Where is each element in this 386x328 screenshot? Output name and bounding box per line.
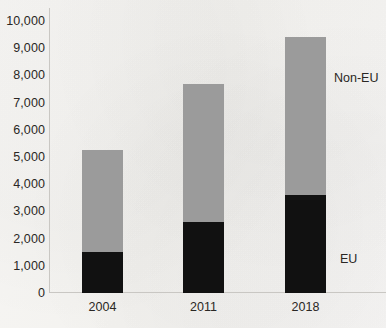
y-axis-tick-label-5000: 5,000 [13, 151, 45, 163]
bar-segment-eu-2011[interactable] [183, 222, 224, 293]
y-axis-tick-label-7000: 7,000 [13, 97, 45, 109]
y-axis-tick-label-9000: 9,000 [13, 42, 45, 54]
y-axis-tick-label-0: 0 [38, 287, 45, 299]
bar-2004[interactable] [82, 150, 123, 293]
y-axis-line [49, 8, 50, 293]
plot-area: 10,000 9,000 8,000 7,000 6,000 5,000 4,0… [0, 0, 386, 328]
bar-segment-noneu-2011[interactable] [183, 84, 224, 223]
bar-segment-noneu-2004[interactable] [82, 150, 123, 252]
series-label-non-eu: Non-EU [334, 71, 378, 85]
stacked-bar-chart: 10,000 9,000 8,000 7,000 6,000 5,000 4,0… [0, 0, 386, 328]
x-axis-tick-label-2004: 2004 [71, 300, 135, 314]
y-axis-tick-label-6000: 6,000 [13, 124, 45, 136]
y-axis-tick-label-2000: 2,000 [13, 233, 45, 245]
x-axis-tick-label-2018: 2018 [274, 300, 338, 314]
bar-2011[interactable] [183, 84, 224, 293]
y-axis-tick-label-8000: 8,000 [13, 69, 45, 81]
bar-2018[interactable] [285, 37, 326, 293]
series-label-eu: EU [340, 252, 357, 266]
y-axis-tick-label-4000: 4,000 [13, 178, 45, 190]
bar-segment-eu-2018[interactable] [285, 195, 326, 293]
x-axis-tick-label-2011: 2011 [172, 300, 236, 314]
y-axis-tick-label-10000: 10,000 [6, 15, 45, 27]
bar-segment-noneu-2018[interactable] [285, 37, 326, 195]
bar-segment-eu-2004[interactable] [82, 252, 123, 293]
y-axis-tick-label-1000: 1,000 [13, 260, 45, 272]
y-axis-tick-label-3000: 3,000 [13, 205, 45, 217]
